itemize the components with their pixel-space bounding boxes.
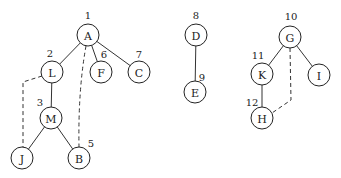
back-edge-l-j bbox=[23, 76, 42, 147]
edges-layer bbox=[23, 41, 312, 149]
node-l: L2 bbox=[41, 48, 63, 83]
node-label: M bbox=[45, 113, 56, 126]
discovery-order-label: 2 bbox=[47, 48, 53, 59]
tree-edge-d-e bbox=[195, 46, 196, 81]
node-k: K11 bbox=[251, 50, 273, 85]
tree-edge-g-k bbox=[269, 46, 284, 65]
node-label: A bbox=[83, 30, 93, 43]
discovery-order-label: 5 bbox=[88, 138, 94, 149]
dfs-forest-diagram: A1L2M3JB5F6C7D8E9G10K11IH12 bbox=[0, 0, 341, 178]
node-i: I bbox=[308, 64, 330, 86]
node-a: A1 bbox=[77, 10, 99, 46]
discovery-order-label: 6 bbox=[101, 49, 107, 60]
node-b: B5 bbox=[68, 138, 94, 169]
tree-edge-a-f bbox=[92, 45, 98, 61]
node-g: G10 bbox=[279, 11, 301, 48]
node-label: K bbox=[258, 69, 267, 82]
discovery-order-label: 11 bbox=[252, 50, 265, 61]
back-edge-a-b bbox=[79, 46, 86, 147]
node-f: F6 bbox=[90, 49, 112, 83]
discovery-order-label: 3 bbox=[37, 97, 43, 108]
tree-edge-g-i bbox=[297, 46, 313, 67]
node-label: C bbox=[135, 67, 143, 80]
discovery-order-label: 8 bbox=[193, 10, 199, 21]
node-d: D8 bbox=[185, 10, 207, 46]
node-label: J bbox=[19, 153, 24, 166]
node-label: B bbox=[75, 153, 83, 166]
node-m: M3 bbox=[37, 97, 62, 129]
node-label: L bbox=[48, 67, 56, 80]
node-j: J bbox=[11, 147, 33, 169]
node-label: H bbox=[257, 113, 267, 126]
discovery-order-label: 10 bbox=[285, 11, 298, 22]
node-label: D bbox=[192, 30, 201, 43]
discovery-order-label: 1 bbox=[85, 10, 91, 21]
discovery-order-label: 9 bbox=[199, 72, 205, 83]
tree-edge-l-m bbox=[51, 83, 52, 107]
tree-edge-a-l bbox=[60, 43, 81, 64]
discovery-order-label: 7 bbox=[136, 49, 142, 60]
tree-edge-m-b bbox=[57, 127, 72, 149]
node-label: E bbox=[191, 87, 199, 100]
node-label: I bbox=[317, 70, 321, 83]
node-h: H12 bbox=[246, 97, 273, 129]
diagram-canvas: A1L2M3JB5F6C7D8E9G10K11IH12 bbox=[0, 0, 341, 178]
node-label: F bbox=[97, 67, 105, 80]
discovery-order-label: 12 bbox=[246, 97, 259, 108]
node-label: G bbox=[286, 32, 295, 45]
node-c: C7 bbox=[128, 49, 150, 83]
nodes-layer: A1L2M3JB5F6C7D8E9G10K11IH12 bbox=[11, 10, 330, 169]
tree-edge-m-j bbox=[28, 127, 44, 149]
